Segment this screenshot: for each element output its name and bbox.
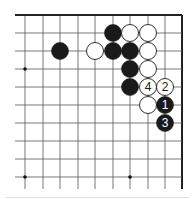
white-stone bbox=[140, 43, 157, 60]
star-point-icon bbox=[128, 175, 132, 179]
star-point-icon bbox=[23, 67, 27, 71]
move-number-label: 4 bbox=[145, 80, 152, 94]
white-stone-icon bbox=[140, 43, 157, 60]
white-stone-icon bbox=[87, 43, 104, 60]
white-stone bbox=[140, 25, 157, 42]
stones-layer: 4213 bbox=[52, 25, 174, 132]
black-stone-move-3: 3 bbox=[157, 115, 174, 132]
white-stone-move-4: 4 bbox=[140, 79, 157, 96]
black-stone-move-1: 1 bbox=[157, 97, 174, 114]
go-board-diagram: 4213 bbox=[0, 0, 196, 199]
black-stone bbox=[52, 43, 69, 60]
black-stone bbox=[105, 25, 122, 42]
move-number-label: 1 bbox=[162, 98, 169, 112]
black-stone bbox=[122, 43, 139, 60]
black-stone-icon bbox=[122, 61, 139, 78]
black-stone bbox=[105, 43, 122, 60]
footer-divider bbox=[5, 197, 189, 198]
move-number-label: 3 bbox=[162, 116, 169, 130]
white-stone bbox=[140, 61, 157, 78]
black-stone bbox=[122, 79, 139, 96]
black-stone-icon bbox=[105, 43, 122, 60]
white-stone-move-2: 2 bbox=[157, 79, 174, 96]
black-stone-icon bbox=[105, 25, 122, 42]
black-stone-icon bbox=[52, 43, 69, 60]
white-stone bbox=[122, 25, 139, 42]
white-stone-icon bbox=[140, 61, 157, 78]
white-stone-icon bbox=[140, 97, 157, 114]
white-stone-icon bbox=[122, 25, 139, 42]
white-stone bbox=[87, 43, 104, 60]
white-stone-icon bbox=[140, 25, 157, 42]
star-point-icon bbox=[23, 175, 27, 179]
move-number-label: 2 bbox=[162, 80, 169, 94]
black-stone-icon bbox=[122, 43, 139, 60]
white-stone bbox=[140, 97, 157, 114]
black-stone bbox=[122, 61, 139, 78]
black-stone-icon bbox=[122, 79, 139, 96]
